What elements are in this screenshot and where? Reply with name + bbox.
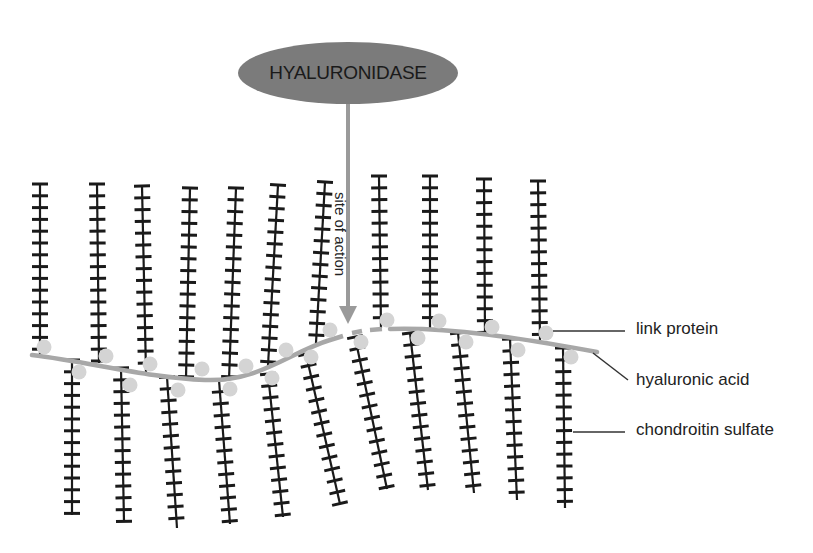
sulfate-tick	[465, 485, 481, 487]
link-protein-dot	[539, 326, 554, 341]
sulfate-tick	[508, 468, 524, 469]
sulfate-tick	[457, 403, 473, 405]
sulfate-tick	[504, 374, 520, 375]
sulfate-tick	[374, 462, 390, 465]
link-protein-dot	[195, 362, 210, 377]
link-protein-dot	[239, 359, 254, 374]
sulfate-tick	[268, 220, 284, 221]
sulfate-tick	[269, 208, 285, 209]
sulfate-tick	[309, 398, 325, 402]
sulfate-tick	[222, 341, 238, 342]
chondroitin-sulfate-chain	[260, 373, 291, 517]
legend-hyaluronic-acid: hyaluronic acid	[636, 370, 749, 390]
chondroitin-sulfate-chain	[64, 360, 80, 515]
chondroitin-sulfate-chain	[32, 184, 48, 358]
sulfate-tick	[314, 421, 330, 425]
sulfate-tick	[262, 326, 278, 327]
chondroitin-sulfate-chain	[178, 188, 198, 378]
chondroitin-sulfate-chain	[308, 182, 333, 343]
sulfate-tick	[301, 364, 317, 368]
sulfate-tick	[319, 444, 335, 448]
sulfate-tick	[317, 182, 333, 183]
chondroitin-sulfate-chain	[530, 181, 548, 340]
chondroitin-sulfate-chain	[134, 186, 154, 372]
sulfate-tick	[420, 484, 436, 486]
sulfate-tick	[221, 509, 237, 510]
sulfate-tick	[223, 317, 239, 318]
sulfate-tick	[369, 439, 385, 442]
link-protein-dot	[411, 331, 426, 346]
sulfate-tick	[168, 506, 184, 507]
sulfate-tick	[352, 358, 368, 361]
sulfate-tick	[379, 485, 395, 488]
link-protein-dot	[511, 343, 526, 358]
chondroitin-sulfate-chain	[555, 348, 573, 508]
sulfate-tick	[164, 459, 180, 460]
sulfate-tick	[262, 338, 278, 339]
sulfate-tick	[415, 449, 431, 451]
chondroitin-sulfate-chain	[371, 176, 389, 328]
chondroitin-sulfate-chain	[450, 332, 481, 493]
link-protein-dot	[265, 371, 280, 386]
sulfate-tick	[269, 196, 285, 197]
site-of-action-label: site of action	[332, 192, 349, 276]
sulfate-tick	[406, 367, 422, 369]
sulfate-tick	[168, 518, 184, 519]
sulfate-tick	[359, 393, 375, 396]
sulfate-tick	[261, 385, 277, 387]
sulfate-tick	[314, 240, 330, 241]
sulfate-tick	[222, 521, 238, 522]
sulfate-tick	[455, 379, 471, 381]
chain-spine	[229, 188, 236, 380]
sulfate-tick	[163, 435, 179, 436]
sulfate-tick	[309, 323, 325, 324]
backbone-cleaved-fragment	[370, 329, 382, 330]
sulfate-tick	[216, 450, 232, 451]
sulfate-tick	[505, 409, 521, 410]
sulfate-tick	[265, 279, 281, 280]
sulfate-tick	[324, 467, 340, 471]
sulfate-tick	[260, 361, 276, 362]
sulfate-tick	[316, 433, 332, 437]
link-protein-dot	[171, 383, 186, 398]
sulfate-tick	[306, 387, 322, 391]
sulfate-tick	[270, 185, 286, 186]
sulfate-tick	[313, 252, 329, 253]
sulfate-tick	[263, 397, 279, 399]
sulfate-tick	[411, 414, 427, 416]
sulfate-tick	[267, 232, 283, 233]
sulfate-tick	[312, 264, 328, 265]
sulfate-tick	[266, 255, 282, 256]
sulfate-tick	[505, 398, 521, 399]
chondroitin-sulfate-chain	[476, 179, 493, 335]
backbone-cleaved-fragment	[352, 331, 362, 333]
sulfate-tick	[357, 382, 373, 385]
sulfate-tick	[270, 467, 286, 469]
sulfate-tick	[271, 479, 287, 481]
sulfate-tick	[371, 451, 387, 454]
sulfate-tick	[329, 490, 345, 494]
sulfate-tick	[312, 276, 328, 277]
sulfate-tick	[267, 243, 283, 244]
chondroitin-sulfate-chain	[89, 184, 107, 363]
sulfate-tick	[414, 438, 430, 440]
link-protein-dot	[143, 357, 158, 372]
legend-link-protein: link protein	[636, 319, 718, 339]
link-protein-dot	[223, 382, 238, 397]
sulfate-tick	[264, 408, 280, 410]
sulfate-tick	[405, 356, 421, 358]
sulfate-tick	[267, 444, 283, 446]
sulfate-tick	[452, 356, 468, 358]
sulfate-tick	[223, 329, 239, 330]
link-protein-dot	[72, 365, 87, 380]
sulfate-tick	[322, 456, 338, 460]
sulfate-tick	[508, 480, 524, 481]
sulfate-tick	[225, 258, 241, 259]
chondroitin-sulfate-chain	[422, 176, 438, 330]
sulfate-tick	[162, 424, 178, 425]
sulfate-tick	[265, 420, 281, 422]
sulfate-tick	[354, 370, 370, 373]
sulfate-tick	[275, 514, 291, 516]
sulfate-tick	[462, 450, 478, 452]
sulfate-tick	[454, 367, 470, 369]
